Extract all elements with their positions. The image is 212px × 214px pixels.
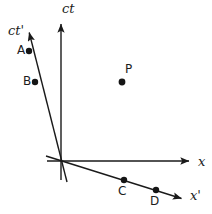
event-label-d: D <box>150 195 159 207</box>
event-point-c <box>121 177 127 183</box>
ct-prime-axis-label: ct' <box>8 24 24 37</box>
event-label-a: A <box>17 44 25 56</box>
event-point-b <box>32 79 38 85</box>
event-label-b: B <box>23 75 31 87</box>
x-prime-axis-label: x' <box>190 189 201 202</box>
spacetime-diagram: ct ct' x x' A B C D P <box>0 0 212 214</box>
event-point-p <box>119 79 126 86</box>
event-label-p: P <box>125 63 132 75</box>
ct-axis-label: ct <box>62 2 75 15</box>
event-point-d <box>153 187 159 193</box>
x-axis-label: x <box>198 155 205 168</box>
event-point-a <box>26 48 32 54</box>
diagram-canvas <box>0 0 212 214</box>
event-label-c: C <box>118 185 126 197</box>
